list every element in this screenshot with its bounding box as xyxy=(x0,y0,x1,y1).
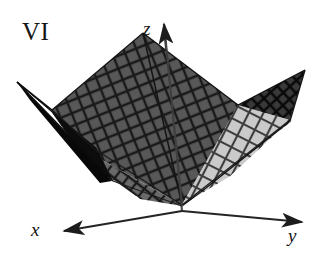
edge-left-wing-top xyxy=(17,82,52,110)
axis-label-y: y xyxy=(288,226,296,245)
x-axis-arrow xyxy=(64,211,182,231)
surface-mesh-group xyxy=(17,33,305,206)
surface-plot-figure: VI z x y xyxy=(0,0,321,257)
axis-label-x: x xyxy=(31,220,39,239)
axis-label-z: z xyxy=(143,19,150,38)
y-axis-arrow xyxy=(182,211,302,222)
panel-label: VI xyxy=(22,19,49,44)
